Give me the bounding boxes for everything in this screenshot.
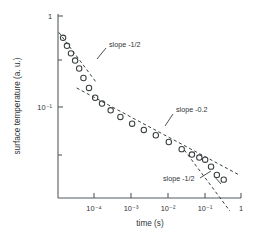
axes-group [58, 14, 241, 198]
data-point [189, 152, 194, 157]
leader-slope-half-late-upper [200, 171, 211, 178]
x-axis-title: time (s) [136, 219, 164, 228]
y-axis-tick-labels: 1 10⁻¹ [37, 12, 52, 112]
data-point [141, 127, 146, 132]
x-axis-tick-labels: 10⁻⁴ 10⁻³ 10⁻² 10⁻¹ 1 [86, 204, 243, 213]
leader-slope-point-two [165, 114, 173, 126]
data-point [202, 157, 207, 162]
x-tick-label-1e-1: 10⁻¹ [198, 204, 213, 213]
data-point [108, 108, 113, 113]
annotation-slope-half-late: slope -1/2 [163, 174, 195, 183]
annotation-leaders [97, 48, 221, 184]
data-point [92, 95, 97, 100]
y-axis-title: surface temperature (a. u.) [13, 57, 22, 154]
data-point [72, 58, 77, 63]
x-tick-label-1e-3: 10⁻³ [124, 204, 139, 213]
data-point [208, 164, 213, 169]
fit-lines-group [59, 32, 240, 211]
annotation-slope-half-early: slope -1/2 [109, 40, 141, 49]
y-tick-label-1: 1 [48, 12, 52, 21]
data-point [99, 101, 104, 106]
x-tick-label-1e-4: 10⁻⁴ [86, 204, 101, 213]
chart-figure: 1 10⁻¹ 10⁻⁴ 10⁻³ 10⁻² 10⁻¹ 1 time (s) su… [0, 0, 254, 236]
x-tick-label-1e-2: 10⁻² [161, 204, 176, 213]
x-axis-ticks [94, 193, 241, 198]
data-point [153, 133, 158, 138]
data-point [197, 155, 202, 160]
data-point [179, 146, 184, 151]
data-point [221, 177, 226, 182]
data-point [86, 85, 91, 90]
y-tick-label-0p1: 10⁻¹ [37, 103, 52, 112]
data-point [76, 66, 81, 71]
data-point [68, 51, 73, 56]
leader-slope-half-early [97, 48, 106, 59]
scatter-plot: 1 10⁻¹ 10⁻⁴ 10⁻³ 10⁻² 10⁻¹ 1 time (s) su… [0, 0, 254, 236]
x-tick-label-1: 1 [239, 204, 243, 213]
data-point [81, 75, 86, 80]
data-point [166, 139, 171, 144]
data-point [129, 121, 134, 126]
annotation-slope-point-two: slope -0.2 [176, 105, 208, 114]
data-point [118, 114, 123, 119]
